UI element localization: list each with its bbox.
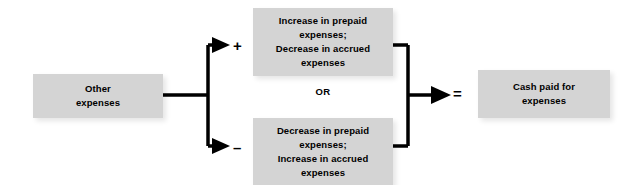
lower-arrow-head [212,138,230,154]
node-branch-negative-line-3: Increase in accrued [259,152,387,166]
node-branch-positive-line-3: Decrease in accrued [259,42,387,56]
node-other-expenses-line-1: Other [39,82,157,96]
result-arrow-head [431,86,451,104]
node-cash-paid-for-expenses: Cash paid for expenses [478,70,610,118]
node-branch-positive-line-2: expenses; [259,28,387,42]
flow-diagram: Other expenses + Increase in prepaid exp… [0,0,638,185]
node-cash-paid-line-2: expenses [484,94,604,108]
node-decrease-prepaid-increase-accrued: Decrease in prepaid expenses; Increase i… [253,118,393,185]
node-branch-positive-line-4: expenses [259,56,387,70]
node-branch-negative-line-4: expenses [259,166,387,180]
node-other-expenses: Other expenses [33,74,163,118]
node-other-expenses-line-2: expenses [39,96,157,110]
plus-sign-label: + [233,38,242,53]
upper-arrow-head [212,37,230,53]
node-branch-positive-line-1: Increase in prepaid [259,14,387,28]
node-branch-negative-line-2: expenses; [259,138,387,152]
or-connector-label: OR [293,86,353,97]
node-branch-negative-line-1: Decrease in prepaid [259,124,387,138]
node-increase-prepaid-decrease-accrued: Increase in prepaid expenses; Decrease i… [253,8,393,76]
minus-sign-label: – [233,140,241,155]
node-cash-paid-line-1: Cash paid for [484,80,604,94]
equals-sign-label: = [453,86,462,101]
